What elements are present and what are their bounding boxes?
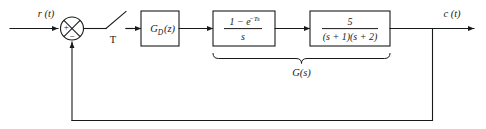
g-of-s-brace: G(s): [213, 53, 390, 79]
summing-junction-plus-sign: +: [64, 22, 69, 32]
zero-order-hold-block: 1 − e −Ts s: [213, 11, 275, 46]
digital-controller-label-arg: (z): [164, 23, 176, 35]
g-of-s-brace-path: [213, 53, 390, 64]
output-signal-group: c (t): [390, 8, 474, 29]
digital-controller-label-sub: D: [157, 28, 164, 37]
input-signal-label: r (t): [38, 8, 55, 20]
zoh-denominator: s: [241, 31, 245, 42]
zoh-numerator-exponent: −Ts: [249, 15, 260, 23]
summing-junction-minus-sign: −: [69, 31, 74, 41]
sampler-switch-blade: [106, 12, 126, 29]
sampler-period-label: T: [110, 34, 117, 45]
block-diagram-container: r (t) + − T G D (z): [0, 0, 486, 129]
plant-numerator: 5: [348, 16, 353, 27]
zoh-numerator: 1 − e: [229, 16, 251, 27]
output-signal-label: c (t): [443, 8, 461, 20]
plant-denominator: (s + 1)(s + 2): [323, 31, 378, 43]
input-signal-group: r (t): [10, 8, 58, 29]
summing-junction: + −: [61, 17, 84, 41]
plant-transfer-function-block: 5 (s + 1)(s + 2): [310, 11, 390, 46]
g-of-s-brace-label: G(s): [292, 67, 311, 79]
block-diagram-svg: r (t) + − T G D (z): [0, 0, 486, 129]
digital-controller-block: G D (z): [141, 11, 179, 46]
